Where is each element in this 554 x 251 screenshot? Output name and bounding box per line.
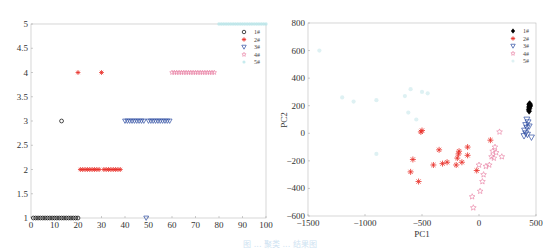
x-tick-label: 10 <box>50 220 60 230</box>
legend-label: 3# <box>523 43 529 49</box>
right-plot-area <box>308 23 536 216</box>
dot-marker <box>242 60 245 63</box>
y-tick-label: 400 <box>292 73 306 83</box>
star-marker <box>99 70 104 75</box>
right-y-ticks: −600−400−2000200400600800 <box>286 18 310 221</box>
y-tick-label: 2 <box>24 165 29 175</box>
x-tick-label: −1000 <box>353 218 377 228</box>
legend-label: 3# <box>254 44 260 50</box>
dot-marker <box>340 95 344 99</box>
y-axis-label: PC2 <box>279 112 289 128</box>
dot-marker <box>426 91 430 95</box>
dot-marker <box>264 22 267 25</box>
legend-label: 2# <box>523 36 529 42</box>
y-tick-label: 1 <box>24 213 29 223</box>
y-tick-label: 5 <box>24 19 29 29</box>
figure-caption: 图 ... 聚类 ... 结果图 <box>210 238 350 248</box>
x-tick-label: 70 <box>191 220 201 230</box>
x-tick-label: 90 <box>238 220 248 230</box>
y-tick-label: 2.5 <box>17 140 29 150</box>
x-tick-label: 100 <box>259 220 273 230</box>
y-tick-label: 0 <box>301 128 306 138</box>
dot-marker <box>317 48 321 52</box>
star-marker <box>242 37 246 41</box>
star-marker <box>118 167 123 172</box>
x-tick-label: 40 <box>121 220 131 230</box>
legend-label: 2# <box>254 37 260 43</box>
y-tick-label: 800 <box>292 18 306 28</box>
y-tick-label: −200 <box>286 156 305 166</box>
dot-marker <box>409 87 413 91</box>
y-tick-label: −400 <box>286 183 305 193</box>
y-tick-label: 4.5 <box>17 43 29 53</box>
dot-marker <box>420 90 424 94</box>
dot-marker <box>374 152 378 156</box>
dot-marker <box>352 99 356 103</box>
dot-marker <box>414 117 418 121</box>
legend-label: 4# <box>254 52 260 58</box>
left-y-ticks: 11.522.533.544.55 <box>17 19 33 223</box>
x-tick-label: −500 <box>413 218 432 228</box>
dot-marker <box>406 111 410 115</box>
y-tick-label: 3 <box>24 116 29 126</box>
x-tick-label: 30 <box>97 220 107 230</box>
legend-label: 5# <box>523 58 529 64</box>
x-axis-label: PC1 <box>414 229 430 239</box>
star-marker <box>97 167 102 172</box>
y-tick-label: −600 <box>286 211 305 221</box>
x-tick-label: 0 <box>477 218 482 228</box>
legend-label: 4# <box>523 51 529 57</box>
left-plot-area <box>31 24 266 218</box>
x-tick-label: 80 <box>215 220 225 230</box>
legend-label: 1# <box>254 29 260 35</box>
x-tick-label: 60 <box>168 220 178 230</box>
x-tick-label: 20 <box>74 220 84 230</box>
x-tick-label: 500 <box>529 218 543 228</box>
star-marker <box>419 128 425 134</box>
left-scatter-plot: 0102030405060708090100 11.522.533.544.55… <box>17 19 274 230</box>
dot-marker <box>511 59 514 62</box>
legend-label: 5# <box>254 59 260 65</box>
star-marker <box>76 70 81 75</box>
y-tick-label: 200 <box>292 101 306 111</box>
y-tick-label: 600 <box>292 46 306 56</box>
dot-marker <box>374 98 378 102</box>
x-tick-label: 0 <box>29 220 34 230</box>
y-tick-label: 1.5 <box>17 189 29 199</box>
x-tick-label: 50 <box>144 220 154 230</box>
y-tick-label: 4 <box>24 68 29 78</box>
y-tick-label: 3.5 <box>17 92 29 102</box>
legend-label: 1# <box>523 28 529 34</box>
dot-marker <box>403 94 407 98</box>
figure: 0102030405060708090100 11.522.533.544.55… <box>0 0 554 251</box>
right-scatter-plot: −1500−1000−5000500 −600−400−200020040060… <box>279 18 543 239</box>
